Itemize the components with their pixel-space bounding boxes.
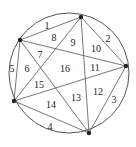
region-label: 16	[60, 63, 70, 74]
region-label: 11	[90, 62, 100, 73]
region-label: 7	[38, 49, 43, 60]
region-label: 13	[71, 92, 81, 103]
region-label: 5	[10, 63, 15, 74]
region-label: 12	[93, 86, 103, 97]
region-label: 15	[34, 79, 44, 90]
circle-chord-diagram: 12345678910111213141516	[0, 0, 136, 147]
vertex-A	[79, 15, 83, 19]
region-label: 14	[46, 99, 56, 110]
chord-DE	[14, 40, 20, 101]
region-label: 10	[91, 43, 101, 54]
vertex-B	[124, 64, 128, 68]
region-label: 3	[112, 94, 117, 105]
region-label: 9	[71, 37, 76, 48]
region-label: 4	[48, 121, 53, 132]
vertex-D	[12, 99, 16, 103]
region-label: 8	[52, 32, 57, 43]
vertices	[12, 15, 128, 135]
vertex-C	[87, 131, 91, 135]
region-label: 6	[25, 63, 30, 74]
region-label: 2	[106, 33, 111, 44]
vertex-E	[18, 38, 22, 42]
chord-AC	[81, 17, 89, 133]
region-label: 1	[45, 20, 50, 31]
